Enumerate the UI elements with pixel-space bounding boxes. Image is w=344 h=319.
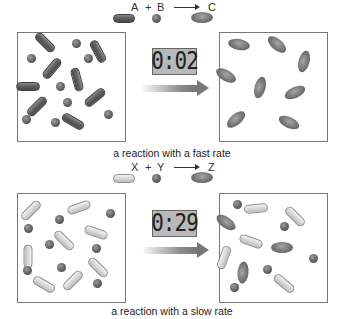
plus-sign: + — [145, 1, 151, 13]
sphere-molecule-icon — [84, 54, 93, 63]
rod-molecule-light-icon — [24, 244, 33, 268]
fast-reaction-panel: A + B C 0:02 a reaction with a fast rate — [0, 0, 344, 160]
fast-equation: A + B C — [0, 0, 344, 30]
fast-timer-value: 0:02 — [151, 49, 198, 73]
product-z-label: Z — [208, 161, 215, 173]
reactant-x-label: X — [131, 161, 138, 173]
fast-timer-display: 0:02 — [152, 48, 197, 75]
slow-caption: a reaction with a slow rate — [0, 305, 344, 317]
sphere-molecule-icon — [152, 14, 161, 23]
plus-sign: + — [145, 161, 151, 173]
slow-equation: X + Y Z — [0, 160, 344, 190]
rod-molecule-dark-icon — [16, 82, 40, 91]
reaction-arrow-icon — [174, 167, 198, 168]
sphere-molecule-icon — [309, 254, 318, 263]
sphere-molecule-icon — [63, 98, 72, 107]
sphere-molecule-icon — [57, 263, 66, 272]
sphere-molecule-icon — [263, 265, 272, 274]
reaction-arrow-icon — [174, 7, 198, 8]
sphere-molecule-icon — [55, 215, 64, 224]
sphere-molecule-icon — [22, 115, 31, 124]
rod-molecule-light-icon — [244, 202, 269, 213]
sphere-molecule-icon — [230, 283, 239, 292]
sphere-molecule-icon — [233, 200, 242, 209]
product-molecule-icon — [191, 172, 213, 183]
product-molecule-icon — [191, 12, 213, 23]
reactant-a-label: A — [131, 1, 138, 13]
sphere-molecule-icon — [106, 209, 115, 218]
sphere-molecule-icon — [72, 39, 81, 48]
sphere-molecule-icon — [45, 240, 54, 249]
slow-reaction-panel: X + Y Z 0:29 a reaction with a slow rate — [0, 160, 344, 319]
fast-progress-arrow-icon — [143, 85, 197, 92]
sphere-molecule-icon — [152, 174, 161, 183]
sphere-molecule-icon — [280, 222, 289, 231]
rod-molecule-dark-icon — [113, 14, 135, 23]
sphere-molecule-icon — [104, 110, 113, 119]
product-c-label: C — [208, 1, 216, 13]
sphere-molecule-icon — [24, 224, 33, 233]
product-molecule-icon — [271, 242, 293, 253]
reactant-b-label: B — [157, 1, 164, 13]
sphere-molecule-icon — [27, 54, 36, 63]
rod-molecule-light-icon — [113, 174, 135, 183]
slow-timer-display: 0:29 — [152, 210, 197, 237]
slow-progress-arrow-icon — [143, 247, 197, 254]
fast-caption: a reaction with a fast rate — [0, 147, 344, 159]
sphere-molecule-icon — [51, 118, 60, 127]
sphere-molecule-icon — [23, 266, 32, 275]
slow-timer-value: 0:29 — [151, 211, 198, 235]
sphere-molecule-icon — [93, 279, 102, 288]
sphere-molecule-icon — [56, 82, 65, 91]
sphere-molecule-icon — [92, 244, 101, 253]
reactant-y-label: Y — [157, 161, 164, 173]
